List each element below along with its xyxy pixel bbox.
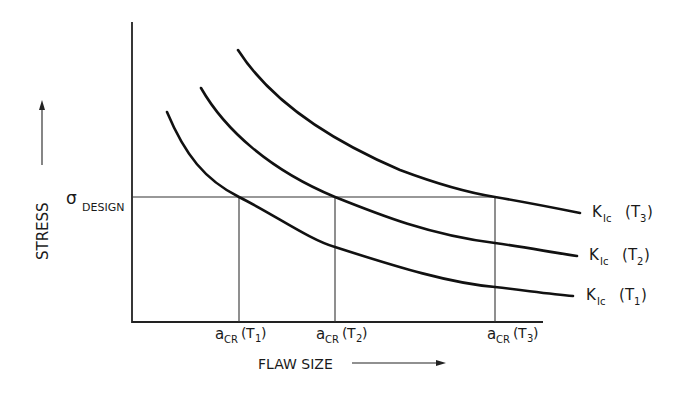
svg-text:CR: CR (496, 334, 510, 345)
svg-text:(: ( (625, 203, 631, 221)
curve-label-t1: K Ic ( T 1 ) (586, 286, 647, 307)
svg-text:a: a (487, 325, 496, 343)
svg-text:K: K (586, 286, 597, 304)
svg-text:Ic: Ic (597, 296, 605, 307)
svg-text:): ) (261, 325, 266, 341)
svg-text:): ) (644, 246, 650, 264)
svg-text:T: T (346, 325, 356, 341)
svg-text:Ic: Ic (600, 256, 608, 267)
y-axis-label: STRESS (34, 202, 52, 260)
svg-text:(: ( (622, 246, 628, 264)
acr-t3-label: a CR ( T 3 ) (487, 325, 538, 345)
svg-text:T: T (245, 325, 255, 341)
curve-kic-t1 (167, 112, 573, 296)
curve-kic-t2 (201, 88, 577, 256)
svg-text:T: T (517, 325, 527, 341)
svg-text:): ) (641, 286, 647, 304)
svg-text:CR: CR (224, 334, 238, 345)
svg-text:CR: CR (325, 334, 339, 345)
svg-text:2: 2 (637, 256, 643, 267)
curve-label-t3: K Ic ( T 3 ) (592, 203, 653, 224)
curve-kic-t3 (238, 50, 580, 213)
svg-text:(: ( (619, 286, 625, 304)
x-arrow-icon (436, 360, 446, 366)
curve-label-t2: K Ic ( T 2 ) (589, 246, 650, 267)
svg-text:σ: σ (66, 188, 77, 208)
x-axis-label: FLAW SIZE (258, 356, 333, 372)
fracture-diagram: STRESS σ DESIGN FLAW SIZE a CR ( T 1 ) a… (0, 0, 686, 395)
svg-text:): ) (647, 203, 653, 221)
design-stress-label: σ DESIGN (66, 188, 124, 214)
svg-text:K: K (592, 203, 603, 221)
svg-text:a: a (215, 325, 224, 343)
axes (132, 22, 543, 322)
svg-text:3: 3 (640, 213, 646, 224)
y-arrow-icon (39, 100, 45, 110)
svg-text:STRESS: STRESS (34, 202, 52, 260)
acr-t2-label: a CR ( T 2 ) (316, 325, 367, 345)
svg-text:a: a (316, 325, 325, 343)
svg-text:K: K (589, 246, 600, 264)
acr-t1-label: a CR ( T 1 ) (215, 325, 266, 345)
svg-text:1: 1 (634, 296, 640, 307)
svg-text:DESIGN: DESIGN (82, 201, 124, 214)
svg-text:Ic: Ic (603, 213, 611, 224)
svg-text:): ) (362, 325, 367, 341)
svg-text:): ) (533, 325, 538, 341)
